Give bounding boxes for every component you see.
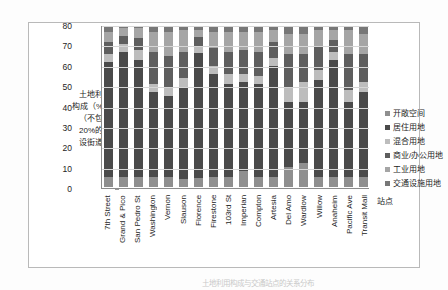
bar-segment[interactable] [194, 178, 203, 187]
bar-segment[interactable] [344, 102, 353, 176]
bar-segment[interactable] [344, 54, 353, 90]
bar[interactable] [299, 26, 308, 187]
bar-segment[interactable] [239, 74, 248, 82]
bar-segment[interactable] [344, 90, 353, 102]
bar-segment[interactable] [299, 34, 308, 54]
bar[interactable] [164, 26, 173, 187]
bar-segment[interactable] [284, 54, 293, 88]
bar-segment[interactable] [179, 88, 188, 179]
bar-segment[interactable] [269, 58, 278, 66]
bar-segment[interactable] [299, 102, 308, 162]
bar-segment[interactable] [314, 177, 323, 187]
bar-segment[interactable] [344, 177, 353, 187]
bar-segment[interactable] [209, 48, 218, 66]
bar-segment[interactable] [329, 30, 338, 40]
bar-segment[interactable] [134, 60, 143, 177]
bar-segment[interactable] [149, 84, 158, 92]
bar-segment[interactable] [134, 28, 143, 38]
bar-segment[interactable] [329, 177, 338, 187]
bar-segment[interactable] [104, 32, 113, 42]
bar-segment[interactable] [269, 66, 278, 177]
bar-segment[interactable] [209, 177, 218, 187]
bar-segment[interactable] [194, 37, 203, 46]
bar[interactable] [149, 26, 158, 187]
bar-segment[interactable] [164, 88, 173, 96]
bar-segment[interactable] [284, 26, 293, 34]
bar-segment[interactable] [329, 60, 338, 177]
bar-segment[interactable] [269, 42, 278, 58]
bar-segment[interactable] [119, 44, 128, 52]
bar[interactable] [104, 26, 113, 187]
bar-segment[interactable] [359, 177, 368, 187]
bar-segment[interactable] [284, 102, 293, 166]
bar-segment[interactable] [179, 179, 188, 187]
bar-segment[interactable] [359, 54, 368, 82]
bar-segment[interactable] [359, 34, 368, 54]
bar-segment[interactable] [134, 50, 143, 60]
bar[interactable] [209, 26, 218, 187]
bar-segment[interactable] [119, 28, 128, 36]
bar-segment[interactable] [119, 177, 128, 187]
bar-segment[interactable] [329, 52, 338, 60]
bar-segment[interactable] [149, 177, 158, 187]
bar-segment[interactable] [179, 30, 188, 52]
bar-segment[interactable] [119, 52, 128, 177]
bar-segment[interactable] [119, 36, 128, 44]
bar-segment[interactable] [299, 82, 308, 102]
bar[interactable] [284, 26, 293, 187]
bar-segment[interactable] [269, 177, 278, 187]
legend-item[interactable]: 商业/办公用地 [385, 151, 447, 160]
bar-segment[interactable] [164, 32, 173, 56]
bar-segment[interactable] [299, 163, 308, 187]
bar[interactable] [329, 26, 338, 187]
legend-item[interactable]: 混合用地 [385, 137, 447, 146]
bar-segment[interactable] [104, 62, 113, 177]
bar-segment[interactable] [314, 70, 323, 80]
bar-segment[interactable] [164, 96, 173, 177]
bar-segment[interactable] [149, 52, 158, 84]
bar-segment[interactable] [194, 53, 203, 178]
bar-segment[interactable] [134, 38, 143, 50]
bar-segment[interactable] [224, 74, 233, 84]
bar-segment[interactable] [269, 30, 278, 42]
bar-segment[interactable] [149, 32, 158, 52]
bar-segment[interactable] [254, 84, 263, 177]
bar[interactable] [239, 26, 248, 187]
bar-segment[interactable] [254, 52, 263, 76]
bar-segment[interactable] [284, 34, 293, 54]
bar-segment[interactable] [164, 56, 173, 88]
legend-item[interactable]: 开敞空间 [385, 109, 447, 118]
bar-segment[interactable] [224, 84, 233, 177]
bar-segment[interactable] [239, 32, 248, 50]
bar-segment[interactable] [224, 32, 233, 52]
bar-segment[interactable] [224, 52, 233, 74]
legend-item[interactable]: 工业用地 [385, 165, 447, 174]
bar-segment[interactable] [164, 177, 173, 187]
bar-segment[interactable] [254, 32, 263, 52]
bar[interactable] [119, 26, 128, 187]
bar-segment[interactable] [314, 30, 323, 46]
bar[interactable] [269, 26, 278, 187]
bar[interactable] [344, 26, 353, 187]
bar-segment[interactable] [239, 171, 248, 187]
bar-segment[interactable] [299, 54, 308, 82]
bar-segment[interactable] [344, 30, 353, 54]
legend-item[interactable]: 交通设施用地 [385, 179, 447, 188]
bar-segment[interactable] [134, 177, 143, 187]
bar-segment[interactable] [104, 42, 113, 54]
bar-segment[interactable] [104, 54, 113, 62]
bar-segment[interactable] [239, 50, 248, 74]
bar-segment[interactable] [359, 26, 368, 34]
bar[interactable] [254, 26, 263, 187]
bar[interactable] [179, 26, 188, 187]
bar-segment[interactable] [284, 167, 293, 187]
bar[interactable] [314, 26, 323, 187]
bar-segment[interactable] [179, 52, 188, 78]
bar-segment[interactable] [194, 30, 203, 37]
legend-item[interactable]: 居住用地 [385, 123, 447, 132]
bar-segment[interactable] [299, 26, 308, 34]
bar-segment[interactable] [284, 88, 293, 102]
bar-segment[interactable] [209, 74, 218, 177]
bar[interactable] [134, 26, 143, 187]
bar-segment[interactable] [149, 92, 158, 177]
